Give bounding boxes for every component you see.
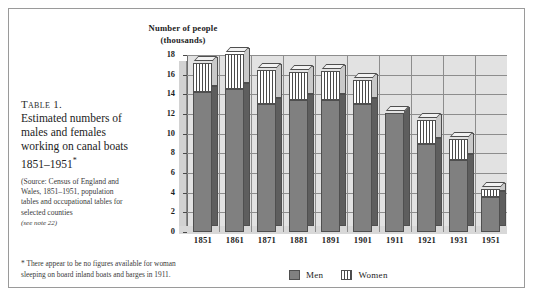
bar-segment-men[interactable] <box>225 89 244 232</box>
bar-segment-men[interactable] <box>257 104 276 232</box>
bar-side-men <box>404 107 410 226</box>
bar-side-men <box>372 98 378 226</box>
gridline-vertical <box>475 55 476 232</box>
gridline-vertical <box>219 55 220 232</box>
bar-group[interactable] <box>225 55 244 232</box>
bar-side-women <box>340 65 346 95</box>
y-tick-label: 8 <box>153 148 175 157</box>
y-tick-label: 18 <box>153 50 175 59</box>
y-tick-mark <box>183 153 187 154</box>
bar-group[interactable] <box>417 55 436 232</box>
legend-swatch-men-icon <box>289 270 300 280</box>
y-tick-label: 12 <box>153 109 175 118</box>
bar-segment-women[interactable] <box>481 189 500 197</box>
y-tick-label: 2 <box>153 207 175 216</box>
bar-side-women <box>244 48 250 83</box>
bar-segment-men[interactable] <box>353 104 372 232</box>
gridline-vertical <box>379 55 380 232</box>
x-tick-label: 1921 <box>411 235 443 245</box>
caption-see-note: (see note 22) <box>21 218 153 228</box>
x-tick-label: 1951 <box>475 235 507 245</box>
x-tick-label: 1871 <box>251 235 283 245</box>
caption-title-years: 1851–1951 <box>21 157 73 169</box>
caption-block: Table 1. Estimated numbers of males and … <box>21 97 153 228</box>
bar-side-men <box>276 98 282 226</box>
caption-title-asterisk: * <box>73 156 77 165</box>
bar-segment-men[interactable] <box>321 100 340 232</box>
legend-label-men: Men <box>306 270 323 280</box>
caption-source-line-1: (Source: Census of England and <box>21 177 153 187</box>
plot-side-wall <box>179 61 187 232</box>
gridline-vertical <box>283 55 284 232</box>
bar-group[interactable] <box>257 55 276 232</box>
legend-label-women: Women <box>358 270 387 280</box>
bar-segment-women[interactable] <box>225 54 244 89</box>
y-tick-mark <box>183 193 187 194</box>
bar-side-women <box>212 57 218 87</box>
caption-title-line-3: working on canal boats <box>21 139 153 153</box>
bar-side-men <box>212 86 218 226</box>
caption-source-line-4: selected counties <box>21 208 153 218</box>
legend-swatch-women-icon <box>341 270 352 280</box>
y-tick-mark <box>183 232 187 233</box>
bar-segment-women[interactable] <box>321 71 340 101</box>
bar-group[interactable] <box>481 55 500 232</box>
bar-segment-men[interactable] <box>417 144 436 232</box>
bar-segment-men[interactable] <box>449 160 468 232</box>
legend-item-men: Men <box>289 270 323 280</box>
bar-top-face <box>449 132 473 137</box>
bar-side-men <box>340 94 346 226</box>
bar-group[interactable] <box>289 55 308 232</box>
bar-top-face <box>257 63 281 68</box>
y-tick-label: 10 <box>153 129 175 138</box>
chart-plot-area: 024681012141618 185118611871188118911901… <box>177 55 507 232</box>
footnote-line-1: * There appear to be no figures availabl… <box>21 259 236 270</box>
bar-group[interactable] <box>193 55 212 232</box>
gridline-vertical <box>315 55 316 232</box>
y-tick-mark <box>183 55 187 56</box>
x-tick-label: 1891 <box>315 235 347 245</box>
caption-title-line-1: Estimated numbers of <box>21 111 153 125</box>
bar-side-men <box>308 94 314 226</box>
bar-group[interactable] <box>449 55 468 232</box>
bar-segment-men[interactable] <box>385 113 404 232</box>
figure-frame: Table 1. Estimated numbers of males and … <box>8 8 525 288</box>
gridline-vertical <box>443 55 444 232</box>
bar-segment-women[interactable] <box>417 120 436 145</box>
bar-side-men <box>500 191 506 226</box>
bar-top-face <box>225 47 249 52</box>
x-tick-label: 1851 <box>187 235 219 245</box>
x-tick-label: 1931 <box>443 235 475 245</box>
caption-title-line-2: males and females <box>21 125 153 139</box>
chart-title-line-1: Number of people <box>113 23 253 35</box>
bar-segment-women[interactable] <box>289 72 308 101</box>
caption-title: Estimated numbers of males and females w… <box>21 111 153 171</box>
bar-segment-men[interactable] <box>193 92 212 232</box>
y-tick-label: 0 <box>153 227 175 236</box>
y-tick-label: 4 <box>153 188 175 197</box>
caption-source: (Source: Census of England and Wales, 18… <box>21 177 153 229</box>
bar-group[interactable] <box>321 55 340 232</box>
bar-segment-men[interactable] <box>481 197 500 232</box>
bar-group[interactable] <box>353 55 372 232</box>
bar-side-men <box>468 154 474 226</box>
chart-legend: Men Women <box>289 270 388 280</box>
bar-top-face <box>481 182 505 187</box>
footnote: * There appear to be no figures availabl… <box>21 259 236 280</box>
footnote-line-2: sleeping on board inland boats and barge… <box>21 270 236 281</box>
bar-segment-women[interactable] <box>449 139 468 161</box>
x-tick-label: 1881 <box>283 235 315 245</box>
bar-segment-men[interactable] <box>289 100 308 232</box>
bar-group[interactable] <box>385 55 404 232</box>
bar-segment-women[interactable] <box>257 70 276 104</box>
y-tick-label: 16 <box>153 70 175 79</box>
chart-title-line-2: (thousands) <box>113 35 253 47</box>
table-label: Table 1. <box>21 97 153 111</box>
bar-segment-women[interactable] <box>353 80 372 105</box>
bar-top-face <box>385 106 409 111</box>
y-tick-mark <box>183 212 187 213</box>
x-tick-label: 1861 <box>219 235 251 245</box>
bar-side-women <box>276 64 282 98</box>
bar-segment-women[interactable] <box>193 63 212 93</box>
y-tick-mark <box>183 114 187 115</box>
